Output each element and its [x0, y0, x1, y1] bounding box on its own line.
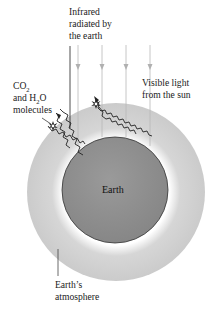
visible-light-label: Visible light from the sun [142, 77, 191, 100]
molecules-text: molecules [13, 104, 52, 115]
infrared-label-line: Infrared [69, 6, 100, 17]
co2-text: CO [13, 80, 26, 91]
molecules-pointer-line [42, 118, 51, 124]
infrared-label: Infrared radiated by the earth [69, 6, 112, 41]
visible-light-label-line: from the sun [142, 89, 191, 100]
molecules-label: CO2 and H2O molecules [13, 80, 52, 115]
svg-text:and H2O: and H2O [13, 92, 46, 105]
greenhouse-diagram: Infrared radiated by the earth Visible l… [0, 0, 214, 311]
earth-label: Earth [102, 184, 124, 195]
atmosphere-label: Earth’s atmosphere [55, 279, 99, 302]
atmosphere-label-line: atmosphere [55, 291, 99, 302]
svg-text:CO2: CO2 [13, 80, 30, 93]
h2o-prefix: and H [13, 92, 36, 103]
visible-light-label-line: Visible light [142, 77, 189, 88]
atmosphere-label-line: Earth’s [55, 279, 82, 290]
h2o-suffix: O [39, 92, 46, 103]
infrared-label-line: the earth [69, 30, 102, 41]
infrared-label-line: radiated by [69, 18, 112, 29]
sunlight-arrowheads [76, 64, 153, 70]
